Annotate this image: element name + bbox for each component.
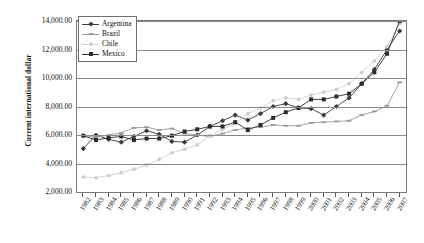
x-axis-tick-label: 1988 (155, 196, 169, 212)
x-axis-tick-mark (234, 193, 235, 197)
legend-marker-dot-icon (82, 39, 99, 49)
y-axis-tick-label: 8,000.00 (10, 101, 72, 110)
gridline (77, 107, 406, 108)
x-axis-tick-mark (399, 193, 400, 197)
x-axis-tick-label: 1985 (117, 196, 131, 212)
x-axis-tick-mark (171, 193, 172, 197)
x-axis-tick-mark (82, 193, 83, 197)
x-axis-tick-mark (285, 193, 286, 197)
y-axis-tick-label: 2,000.00 (10, 187, 72, 196)
x-axis-tick-label: 1993 (218, 196, 232, 212)
legend-marker-square-icon (82, 49, 99, 59)
legend-label: Chile (99, 39, 118, 49)
y-axis-tick-label: 10,000.00 (10, 73, 72, 82)
x-axis-tick-mark (95, 193, 96, 197)
x-axis-tick-label: 2000 (306, 196, 320, 212)
gridline (77, 164, 406, 165)
legend-item-argentina[interactable]: Argentina (82, 19, 131, 29)
x-axis-tick-mark (108, 193, 109, 197)
x-axis-tick-mark (247, 193, 248, 197)
x-axis-tick-label: 2005 (370, 196, 384, 212)
legend-item-brazil[interactable]: Brazil (82, 29, 131, 39)
x-axis-tick-mark (196, 193, 197, 197)
x-axis-tick-label: 1994 (231, 196, 245, 212)
x-axis-tick-mark (184, 193, 185, 197)
y-axis-tick-label: 4,000.00 (10, 158, 72, 167)
x-axis-tick-label: 1982 (79, 196, 93, 212)
x-axis-tick-label: 1997 (269, 196, 283, 212)
x-axis-tick-label: 1998 (281, 196, 295, 212)
x-axis-tick-mark (209, 193, 210, 197)
x-axis-tick-label: 1989 (167, 196, 181, 212)
x-axis-tick-mark (272, 193, 273, 197)
x-axis-tick-label: 1992 (205, 196, 219, 212)
x-axis-tick-label: 2006 (382, 196, 396, 212)
x-axis-tick-label: 1991 (193, 196, 207, 212)
x-axis-tick-label: 2001 (319, 196, 333, 212)
y-axis-tick-label: 14,000.00 (10, 16, 72, 25)
x-axis-tick-mark (386, 193, 387, 197)
y-axis-ticks: 14,000.0012,000.0010,000.008,000.006,000… (8, 20, 72, 193)
x-axis-tick-mark (297, 193, 298, 197)
x-axis-tick-label: 1987 (142, 196, 156, 212)
x-axis-ticks: 1982198319841985198619871988198919901991… (76, 196, 407, 243)
x-axis-tick-label: 1983 (91, 196, 105, 212)
legend-label: Brazil (99, 29, 120, 39)
chart-root: Current international dollar 14,000.0012… (0, 0, 424, 243)
x-axis-tick-mark (120, 193, 121, 197)
x-axis-tick-mark (158, 193, 159, 197)
legend-marker-diamond-icon (82, 19, 99, 29)
x-axis-tick-mark (373, 193, 374, 197)
x-axis-tick-label: 2004 (357, 196, 371, 212)
x-axis-tick-label: 1996 (256, 196, 270, 212)
y-axis-tick-label: 12,000.00 (10, 44, 72, 53)
x-axis-tick-mark (361, 193, 362, 197)
legend-item-chile[interactable]: Chile (82, 39, 131, 49)
x-axis-tick-mark (348, 193, 349, 197)
legend-marker-dash-icon (82, 29, 99, 39)
x-axis-tick-label: 1986 (129, 196, 143, 212)
chart-legend[interactable]: ArgentinaBrazilChileMexico (78, 16, 137, 62)
x-axis-tick-mark (335, 193, 336, 197)
x-axis-tick-mark (259, 193, 260, 197)
x-axis-tick-label: 1984 (104, 196, 118, 212)
x-axis-tick-mark (133, 193, 134, 197)
gridline (77, 135, 406, 136)
x-axis-tick-mark (146, 193, 147, 197)
x-axis-tick-label: 1995 (243, 196, 257, 212)
x-axis-tick-label: 2007 (395, 196, 409, 212)
x-axis-tick-mark (310, 193, 311, 197)
x-axis-tick-label: 1999 (294, 196, 308, 212)
x-axis-tick-label: 2003 (344, 196, 358, 212)
legend-label: Mexico (99, 49, 125, 59)
y-axis-tick-label: 6,000.00 (10, 130, 72, 139)
gridline (77, 78, 406, 79)
x-axis-tick-label: 2002 (332, 196, 346, 212)
legend-item-mexico[interactable]: Mexico (82, 49, 131, 59)
x-axis-tick-label: 1990 (180, 196, 194, 212)
legend-label: Argentina (99, 19, 131, 29)
x-axis-tick-mark (222, 193, 223, 197)
x-axis-tick-mark (323, 193, 324, 197)
